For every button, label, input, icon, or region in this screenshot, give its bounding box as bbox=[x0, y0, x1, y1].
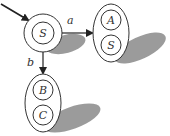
state-B-label: B bbox=[38, 84, 47, 97]
start-node: S bbox=[24, 14, 62, 52]
state-diagram: a b S A S B C bbox=[0, 0, 170, 136]
state-S2-label: S bbox=[107, 39, 115, 52]
state-S-label: S bbox=[39, 27, 47, 40]
edge-b-label: b bbox=[27, 56, 34, 69]
start-arrow bbox=[1, 4, 28, 20]
state-C-label: C bbox=[39, 109, 48, 122]
right-node: A S bbox=[93, 4, 129, 62]
state-A-label: A bbox=[106, 14, 115, 27]
bottom-node: B C bbox=[25, 74, 61, 132]
edge-a-label: a bbox=[67, 14, 74, 27]
